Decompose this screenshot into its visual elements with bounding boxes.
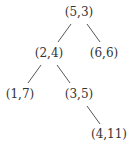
node-root: (5,3) [65, 5, 93, 19]
edge-5-3-to-6-6 [87, 24, 100, 42]
edge-2-4-to-1-7 [28, 65, 41, 83]
nodes: (5,3) (2,4) (6,6) (1,7) (3,5) (4,11) [6, 5, 127, 141]
node-left: (2,4) [35, 46, 63, 60]
edges [28, 24, 100, 124]
edge-5-3-to-2-4 [58, 24, 71, 42]
node-left-right: (3,5) [65, 87, 93, 101]
edge-3-5-to-4-11 [87, 106, 100, 124]
node-left-right-right: (4,11) [91, 127, 127, 141]
node-left-left: (1,7) [6, 87, 34, 101]
edge-2-4-to-3-5 [57, 65, 70, 83]
tree-diagram: (5,3) (2,4) (6,6) (1,7) (3,5) (4,11) [0, 0, 131, 149]
node-right: (6,6) [90, 46, 118, 60]
